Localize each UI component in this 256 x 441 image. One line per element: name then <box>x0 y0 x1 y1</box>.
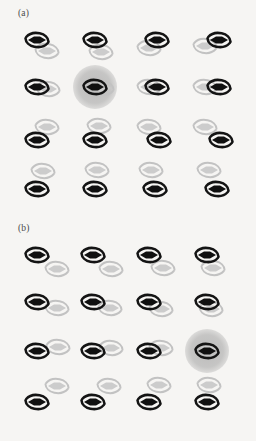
dark-unit <box>22 28 52 52</box>
molecule-pair <box>78 333 140 378</box>
molecule-pair <box>134 378 196 423</box>
dark-unit <box>78 243 108 267</box>
molecule-pair <box>190 73 252 118</box>
molecule-pair <box>190 333 252 378</box>
molecule-pair <box>22 378 84 423</box>
molecule-pair <box>78 378 140 423</box>
molecule-pair <box>78 163 140 208</box>
dark-unit <box>22 75 52 99</box>
molecule-pair <box>78 28 140 73</box>
dark-unit <box>192 243 222 267</box>
molecule-pair <box>22 118 84 163</box>
molecule-pair <box>134 288 196 333</box>
figure-root: (a) (b) <box>0 0 256 441</box>
molecule-pair <box>78 243 140 288</box>
dark-unit <box>80 177 110 201</box>
molecule-pair <box>134 73 196 118</box>
dark-unit <box>206 128 236 152</box>
dark-unit <box>144 128 174 152</box>
dark-unit <box>134 243 164 267</box>
dark-unit <box>192 290 222 314</box>
dark-unit <box>140 177 170 201</box>
dark-unit <box>80 75 110 99</box>
dark-unit <box>204 28 234 52</box>
molecule-pair <box>190 378 252 423</box>
dark-unit <box>142 75 172 99</box>
dark-unit <box>134 339 164 363</box>
dark-unit <box>80 128 110 152</box>
dark-unit <box>192 339 222 363</box>
dark-unit <box>80 28 110 52</box>
dark-unit <box>204 75 234 99</box>
molecule-pair <box>134 28 196 73</box>
molecule-pair <box>22 73 84 118</box>
dark-unit <box>202 177 232 201</box>
molecule-pair <box>78 118 140 163</box>
molecule-pair <box>134 333 196 378</box>
molecule-pair <box>190 28 252 73</box>
dark-unit <box>142 28 172 52</box>
dark-unit <box>134 390 164 414</box>
molecule-pair <box>190 243 252 288</box>
panel-b-grid <box>0 215 256 441</box>
dark-unit <box>22 339 52 363</box>
dark-unit <box>78 290 108 314</box>
molecule-pair <box>134 118 196 163</box>
panel-a-grid <box>0 0 256 215</box>
dark-unit <box>134 290 164 314</box>
dark-unit <box>78 339 108 363</box>
molecule-pair <box>78 288 140 333</box>
molecule-pair <box>22 28 84 73</box>
dark-unit <box>22 128 52 152</box>
dark-unit <box>192 390 222 414</box>
dark-unit <box>22 290 52 314</box>
dark-unit <box>22 390 52 414</box>
molecule-pair <box>134 243 196 288</box>
molecule-pair <box>190 118 252 163</box>
molecule-pair <box>134 163 196 208</box>
molecule-pair <box>22 288 84 333</box>
dark-unit <box>22 177 52 201</box>
dark-unit <box>22 243 52 267</box>
panel-a: (a) <box>0 0 256 215</box>
molecule-pair <box>22 163 84 208</box>
molecule-pair <box>190 288 252 333</box>
molecule-pair <box>190 163 252 208</box>
dark-unit <box>78 390 108 414</box>
molecule-pair <box>22 333 84 378</box>
molecule-pair <box>22 243 84 288</box>
molecule-pair <box>78 73 140 118</box>
panel-b: (b) <box>0 215 256 441</box>
